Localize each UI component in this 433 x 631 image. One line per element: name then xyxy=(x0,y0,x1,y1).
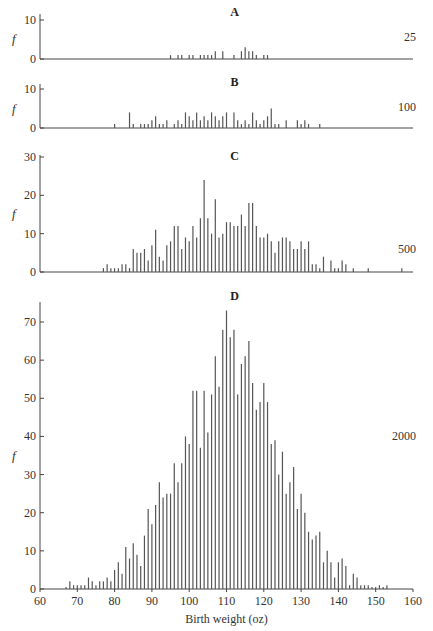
panel-title: D xyxy=(230,289,239,303)
x-tick-label: 140 xyxy=(329,594,347,608)
panel-title: A xyxy=(230,5,239,19)
y-axis-label: f xyxy=(12,101,18,116)
y-tick-label: 10 xyxy=(24,13,36,27)
x-tick-label: 120 xyxy=(255,594,273,608)
y-tick-label: 30 xyxy=(24,150,36,164)
y-tick-label: 0 xyxy=(30,121,36,135)
x-tick-label: 130 xyxy=(292,594,310,608)
birth-weight-histograms: 010Af25010Bf1000102030Cf5000102030405060… xyxy=(0,0,433,631)
y-tick-label: 50 xyxy=(24,391,36,405)
y-tick-label: 10 xyxy=(24,227,36,241)
x-tick-label: 70 xyxy=(71,594,83,608)
x-tick-label: 80 xyxy=(109,594,121,608)
x-tick-label: 100 xyxy=(180,594,198,608)
sample-size-label: 2000 xyxy=(392,429,416,443)
x-tick-label: 60 xyxy=(34,594,46,608)
y-tick-label: 70 xyxy=(24,315,36,329)
x-tick-label: 90 xyxy=(146,594,158,608)
x-tick-label: 160 xyxy=(404,594,422,608)
y-tick-label: 60 xyxy=(24,353,36,367)
y-axis-label: f xyxy=(12,448,18,463)
y-tick-label: 10 xyxy=(24,82,36,96)
y-tick-label: 0 xyxy=(30,52,36,66)
x-tick-label: 110 xyxy=(218,594,236,608)
panel-title: B xyxy=(230,75,238,89)
y-tick-label: 10 xyxy=(24,544,36,558)
panel-title: C xyxy=(230,149,239,163)
y-axis-label: f xyxy=(12,206,18,221)
sample-size-label: 500 xyxy=(398,242,416,256)
y-tick-label: 0 xyxy=(30,265,36,279)
sample-size-label: 100 xyxy=(398,100,416,114)
sample-size-label: 25 xyxy=(404,30,416,44)
y-tick-label: 40 xyxy=(24,429,36,443)
y-axis-label: f xyxy=(12,31,18,46)
x-tick-label: 150 xyxy=(367,594,385,608)
y-tick-label: 30 xyxy=(24,468,36,482)
y-tick-label: 20 xyxy=(24,506,36,520)
x-axis-label: Birth weight (oz) xyxy=(185,612,268,626)
y-tick-label: 20 xyxy=(24,188,36,202)
